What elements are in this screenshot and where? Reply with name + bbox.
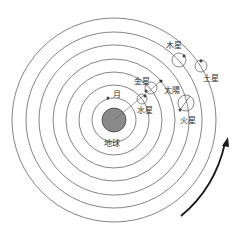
label-sun: 太陽 [164, 85, 180, 95]
label-moon: 月 [113, 90, 121, 99]
jupiter-epicycle [172, 53, 186, 67]
arrow-head-icon [222, 137, 229, 147]
sun [159, 79, 162, 82]
label-earth: 地球 [104, 138, 120, 148]
label-jupiter: 木星 [166, 40, 182, 50]
geocentric-diagram: 地球 月 水星 金星 太陽 火星 木星 土星 [0, 0, 241, 234]
rotation-arrow [181, 143, 225, 216]
label-mars: 火星 [180, 116, 196, 125]
moon [107, 97, 110, 100]
label-venus: 金星 [134, 76, 150, 86]
saturn-epicycle [195, 60, 207, 72]
label-mercury: 水星 [137, 105, 153, 115]
label-saturn: 土星 [203, 73, 219, 83]
mars-epicycle [178, 95, 194, 111]
